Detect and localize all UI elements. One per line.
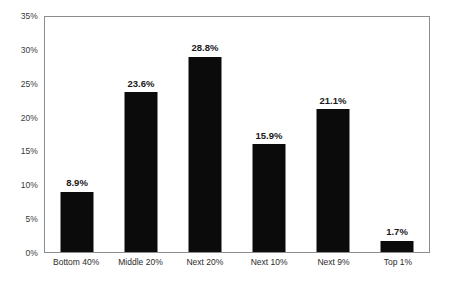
y-axis-tick-label: 25% <box>0 79 38 88</box>
x-axis-category-label: Next 10% <box>251 258 288 267</box>
y-axis-tick-label: 35% <box>0 12 38 21</box>
plot-area: 8.9%23.6%28.8%15.9%21.1%1.7% <box>44 16 430 253</box>
y-axis-tick-label: 0% <box>0 249 38 258</box>
bar-value-label: 23.6% <box>128 79 155 89</box>
bar-chart: 0%5%10%15%20%25%30%35% 8.9%23.6%28.8%15.… <box>0 0 451 284</box>
bar-slot: 1.7% <box>365 17 429 252</box>
bar-slot: 15.9% <box>237 17 301 252</box>
y-axis-tick-label: 20% <box>0 113 38 122</box>
bar-slot: 28.8% <box>173 17 237 252</box>
y-axis-tick-label: 30% <box>0 46 38 55</box>
bar-slot: 8.9% <box>45 17 109 252</box>
x-axis: Bottom 40%Middle 20%Next 20%Next 10%Next… <box>44 258 430 278</box>
bar-value-label: 21.1% <box>320 96 347 106</box>
y-axis: 0%5%10%15%20%25%30%35% <box>0 0 38 284</box>
x-axis-category-label: Middle 20% <box>118 258 162 267</box>
x-axis-category-label: Bottom 40% <box>53 258 99 267</box>
bar[interactable] <box>253 144 286 252</box>
y-axis-tick-label: 15% <box>0 147 38 156</box>
bar-value-label: 28.8% <box>192 43 219 53</box>
bar[interactable] <box>189 57 222 252</box>
bar-value-label: 8.9% <box>66 178 88 188</box>
y-axis-tick-label: 5% <box>0 215 38 224</box>
bar-slot: 23.6% <box>109 17 173 252</box>
x-axis-category-label: Next 20% <box>186 258 223 267</box>
bar[interactable] <box>317 109 350 252</box>
plot-inner: 8.9%23.6%28.8%15.9%21.1%1.7% <box>45 17 429 252</box>
bar[interactable] <box>125 92 158 252</box>
x-axis-category-label: Top 1% <box>384 258 412 267</box>
bar-value-label: 1.7% <box>386 227 408 237</box>
bar-slot: 21.1% <box>301 17 365 252</box>
bar[interactable] <box>381 241 414 253</box>
bar-value-label: 15.9% <box>256 131 283 141</box>
y-axis-tick-label: 10% <box>0 181 38 190</box>
bar[interactable] <box>61 192 94 252</box>
x-axis-category-label: Next 9% <box>317 258 349 267</box>
